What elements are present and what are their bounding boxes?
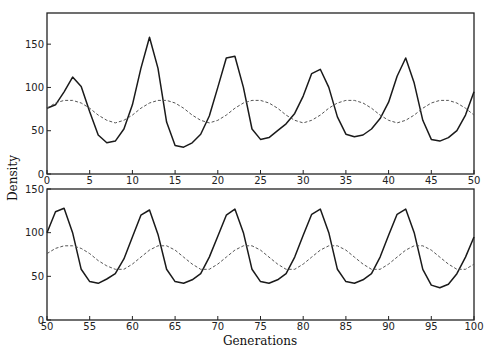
x-tick-label: 35 bbox=[340, 175, 353, 186]
y-tick-label: 150 bbox=[25, 184, 44, 195]
y-tick-label: 100 bbox=[25, 82, 44, 93]
x-tick-label: 15 bbox=[169, 175, 182, 186]
x-tick-label: 80 bbox=[297, 321, 310, 332]
x-tick-label: 75 bbox=[254, 321, 267, 332]
solid-density-line bbox=[47, 37, 474, 147]
dashed-reference-line bbox=[47, 246, 474, 269]
plot-frame bbox=[47, 189, 474, 320]
chart-figure: 05101520253035404550050100150 5055606570… bbox=[0, 0, 489, 350]
x-tick-label: 30 bbox=[297, 175, 310, 186]
dashed-reference-line bbox=[47, 100, 474, 123]
x-tick-label: 95 bbox=[425, 321, 438, 332]
y-tick-label: 100 bbox=[25, 227, 44, 238]
y-tick-label: 0 bbox=[38, 169, 44, 180]
bottom-panel: 50556065707580859095100050100150 bbox=[25, 184, 484, 333]
x-tick-label: 65 bbox=[169, 321, 182, 332]
x-tick-label: 85 bbox=[340, 321, 353, 332]
x-tick-label: 20 bbox=[211, 175, 224, 186]
y-tick-label: 0 bbox=[38, 315, 44, 326]
x-tick-label: 45 bbox=[425, 175, 438, 186]
x-tick-label: 40 bbox=[382, 175, 395, 186]
top-panel: 05101520253035404550050100150 bbox=[25, 13, 480, 186]
x-tick-label: 100 bbox=[464, 321, 483, 332]
x-tick-label: 10 bbox=[126, 175, 139, 186]
y-axis-title: Density bbox=[6, 155, 20, 201]
x-tick-label: 25 bbox=[254, 175, 267, 186]
y-tick-label: 50 bbox=[31, 125, 44, 136]
y-tick-label: 50 bbox=[31, 271, 44, 282]
x-tick-label: 5 bbox=[87, 175, 93, 186]
x-tick-label: 60 bbox=[126, 321, 139, 332]
x-axis-title: Generations bbox=[223, 334, 297, 348]
x-tick-label: 50 bbox=[468, 175, 481, 186]
x-tick-label: 0 bbox=[44, 175, 50, 186]
x-tick-label: 55 bbox=[83, 321, 96, 332]
x-tick-label: 70 bbox=[211, 321, 224, 332]
plot-frame bbox=[47, 13, 474, 174]
solid-density-line bbox=[47, 208, 474, 288]
x-tick-label: 90 bbox=[382, 321, 395, 332]
y-tick-label: 150 bbox=[25, 39, 44, 50]
